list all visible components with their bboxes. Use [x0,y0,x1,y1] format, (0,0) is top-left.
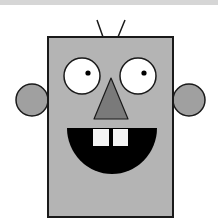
tooth-right [113,129,128,146]
tooth-left [93,129,109,146]
robot-face [0,0,218,220]
ear-right [173,84,205,116]
eye-right [120,58,156,94]
pupil-right [141,70,146,75]
eye-left [64,58,100,94]
antenna-left [97,20,103,37]
ear-left [16,84,48,116]
antenna-right [118,20,125,37]
head [48,37,173,217]
pupil-left [85,70,90,75]
